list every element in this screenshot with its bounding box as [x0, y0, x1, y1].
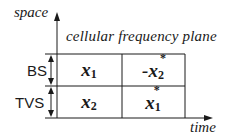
- cell-symbol: x: [148, 60, 158, 81]
- bs-span-arrow-down-icon: [48, 78, 54, 85]
- row-label-tvs: TVS: [15, 94, 44, 111]
- time-axis-label: time: [190, 119, 216, 136]
- row-label-bs: BS: [27, 62, 47, 79]
- cell-subscript: 1: [155, 100, 161, 114]
- cell-subscript: 1: [91, 67, 97, 81]
- cell-tvs-slot1: x2: [74, 91, 104, 114]
- cell-subscript: 2: [158, 68, 164, 82]
- space-axis-arrow-icon: [54, 12, 60, 21]
- cell-bs-slot2: -x2*: [136, 59, 176, 83]
- space-axis-label: space: [14, 4, 48, 21]
- cell-subscript: 2: [91, 99, 97, 113]
- cell-conjugate-mark: *: [160, 51, 166, 65]
- cell-conjugate-mark: *: [154, 83, 160, 97]
- cell-symbol: x: [81, 91, 91, 112]
- cell-tvs-slot2: x1*: [136, 91, 176, 115]
- cell-symbol: x: [81, 59, 91, 80]
- tvs-span-arrow-down-icon: [48, 110, 54, 117]
- cell-bs-slot1: x1: [74, 59, 104, 82]
- bs-span-arrow-up-icon: [48, 55, 54, 62]
- plane-title: cellular frequency plane: [66, 28, 217, 45]
- tvs-span-arrow-up-icon: [48, 87, 54, 94]
